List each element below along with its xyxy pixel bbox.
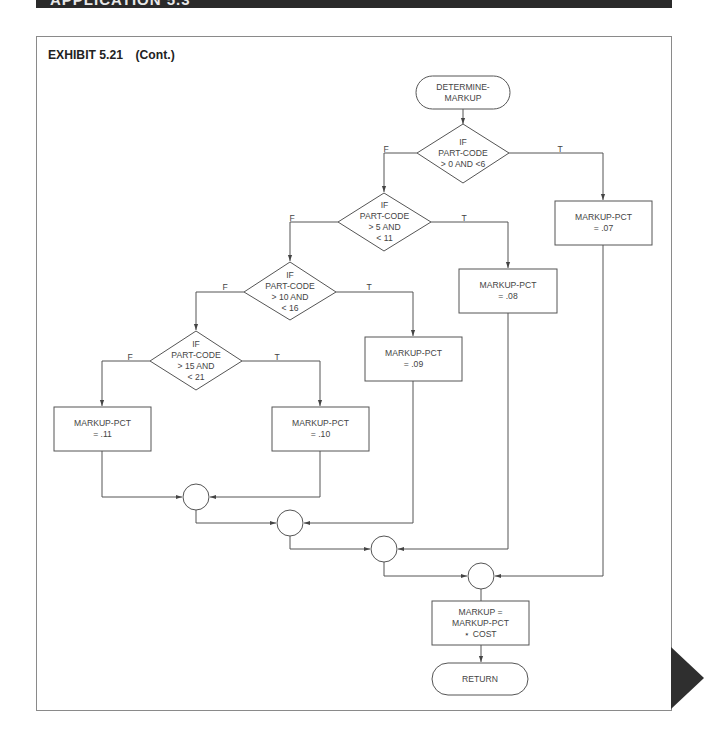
return-label: RETURN [432, 674, 528, 685]
start-label: DETERMINE- MARKUP [416, 82, 510, 104]
d2-false-label: F [286, 213, 298, 224]
decision-4-text: IF PART-CODE > 15 AND < 21 [150, 339, 242, 383]
connector-circle-1 [183, 484, 209, 510]
decision-1-text: IF PART-CODE > 0 AND <6 [417, 137, 509, 170]
d3-true-label: T [363, 282, 375, 293]
d3-false-label: F [219, 282, 231, 293]
next-page-triangle-icon [671, 647, 704, 709]
connector-circle-4 [468, 563, 494, 589]
connector-circle-3 [371, 536, 397, 562]
process-08-text: MARKUP-PCT = .08 [459, 280, 557, 302]
process-10-text: MARKUP-PCT = .10 [272, 418, 369, 440]
process-09-text: MARKUP-PCT = .09 [365, 348, 462, 370]
process-07-text: MARKUP-PCT = .07 [555, 212, 652, 234]
decision-3-text: IF PART-CODE > 10 AND < 16 [244, 270, 336, 314]
d4-false-label: F [124, 352, 136, 363]
d4-true-label: T [271, 352, 283, 363]
flowchart [0, 0, 713, 741]
decision-2-text: IF PART-CODE > 5 AND < 11 [338, 200, 431, 244]
compute-text: MARKUP = MARKUP-PCT ⋆ COST [432, 607, 529, 640]
d1-true-label: T [554, 144, 566, 155]
d2-true-label: T [458, 213, 470, 224]
connector-circle-2 [277, 510, 303, 536]
process-11-text: MARKUP-PCT = .11 [54, 418, 151, 440]
d1-false-label: F [380, 144, 392, 155]
